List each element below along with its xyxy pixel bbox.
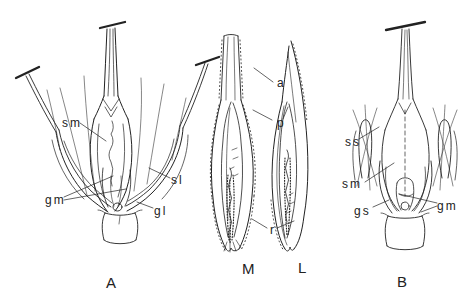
panel-m-floret: M bbox=[210, 35, 255, 278]
panel-b-spikelet: ss sm gs gm B bbox=[342, 22, 458, 290]
caption-m: M bbox=[242, 260, 256, 277]
spikelet-diagram: sm gm sl gl A bbox=[0, 0, 472, 300]
label-sm: sm bbox=[62, 116, 82, 130]
leader-gl bbox=[137, 202, 153, 208]
caption-b: B bbox=[397, 273, 408, 290]
leader-gm bbox=[64, 176, 113, 197]
central-floret bbox=[382, 130, 429, 211]
right-lemma bbox=[126, 126, 188, 211]
label-sm: sm bbox=[342, 177, 362, 191]
caption-l: L bbox=[298, 259, 307, 276]
awn-column bbox=[219, 35, 243, 101]
palea bbox=[221, 102, 242, 237]
figure-page: { "canvas": { "background": "#ffffff", "… bbox=[0, 0, 472, 300]
glumes bbox=[379, 161, 432, 213]
leader-sl bbox=[149, 168, 170, 178]
awn-tip-bar bbox=[196, 57, 219, 65]
awn-tip-bar bbox=[16, 67, 39, 78]
leader-p bbox=[253, 110, 272, 120]
label-r: r bbox=[270, 223, 276, 237]
label-ss: ss bbox=[345, 135, 361, 149]
central-awn bbox=[94, 28, 128, 119]
label-gm: gm bbox=[437, 199, 458, 213]
panel-a-spikelet: sm gm sl gl A bbox=[16, 22, 219, 291]
caption-a: A bbox=[106, 274, 117, 291]
central-floret bbox=[90, 119, 132, 211]
sterile-shoots bbox=[353, 120, 457, 180]
label-sl: sl bbox=[171, 173, 184, 187]
leader-a bbox=[254, 68, 273, 82]
label-gl: gl bbox=[154, 204, 167, 218]
awn-tip-bar bbox=[100, 22, 125, 28]
central-awn bbox=[385, 29, 426, 196]
leader-r bbox=[252, 219, 267, 228]
pedicel bbox=[381, 213, 429, 250]
label-p: p bbox=[277, 116, 286, 130]
label-gs: gs bbox=[354, 204, 371, 218]
leader-r bbox=[277, 221, 294, 228]
awn-tip-bar bbox=[386, 22, 425, 30]
glumes bbox=[102, 168, 131, 207]
leader-ss bbox=[359, 127, 379, 139]
label-a: a bbox=[277, 76, 286, 90]
label-gm: gm bbox=[45, 193, 66, 207]
